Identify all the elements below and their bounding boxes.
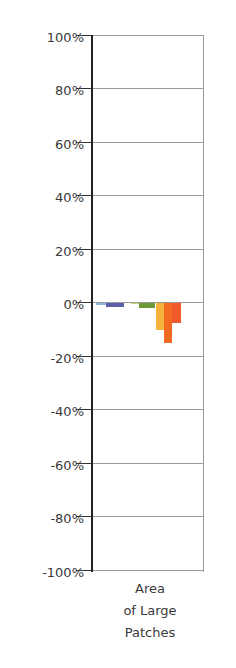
- ytick-label: -20%: [50, 351, 84, 366]
- bar-series-6: [164, 303, 172, 343]
- gridline: [92, 88, 203, 89]
- plot-right-border: [203, 35, 204, 572]
- ytick: [76, 356, 92, 357]
- ytick-label: -40%: [50, 404, 84, 419]
- gridline: [92, 409, 203, 410]
- bar-series-2: [106, 303, 124, 307]
- gridline: [92, 356, 203, 357]
- ytick-label: -80%: [50, 511, 84, 526]
- ytick: [76, 570, 92, 571]
- bar-series-4: [139, 303, 155, 308]
- gridline: [92, 570, 203, 571]
- ytick: [76, 88, 92, 89]
- ytick: [76, 302, 92, 303]
- x-category-label-line: Patches: [110, 622, 190, 644]
- bar-series-3: [131, 303, 139, 304]
- ytick-label: 60%: [55, 137, 84, 152]
- x-category-label: Area of Large Patches: [110, 578, 190, 644]
- ytick: [76, 409, 92, 410]
- gridline: [92, 516, 203, 517]
- x-category-label-line: of Large: [110, 600, 190, 622]
- ytick-label: 40%: [55, 190, 84, 205]
- gridline: [92, 249, 203, 250]
- gridline: [92, 195, 203, 196]
- ytick-label: 80%: [55, 83, 84, 98]
- ytick: [76, 35, 92, 36]
- ytick-label: -60%: [50, 458, 84, 473]
- bar-series-5: [156, 303, 164, 330]
- gridline: [92, 35, 203, 36]
- ytick: [76, 195, 92, 196]
- ytick-label: 20%: [55, 244, 84, 259]
- ytick: [76, 516, 92, 517]
- ytick: [76, 463, 92, 464]
- x-category-label-line: Area: [110, 578, 190, 600]
- ytick-label: -100%: [42, 565, 84, 580]
- gridline: [92, 463, 203, 464]
- bar-series-7: [172, 303, 181, 323]
- ytick: [76, 249, 92, 250]
- y-axis-line: [91, 35, 93, 572]
- ytick-label: 100%: [47, 30, 84, 45]
- ytick: [76, 142, 92, 143]
- ytick-label: 0%: [63, 297, 84, 312]
- gridline: [92, 142, 203, 143]
- bar-series-1: [96, 303, 106, 305]
